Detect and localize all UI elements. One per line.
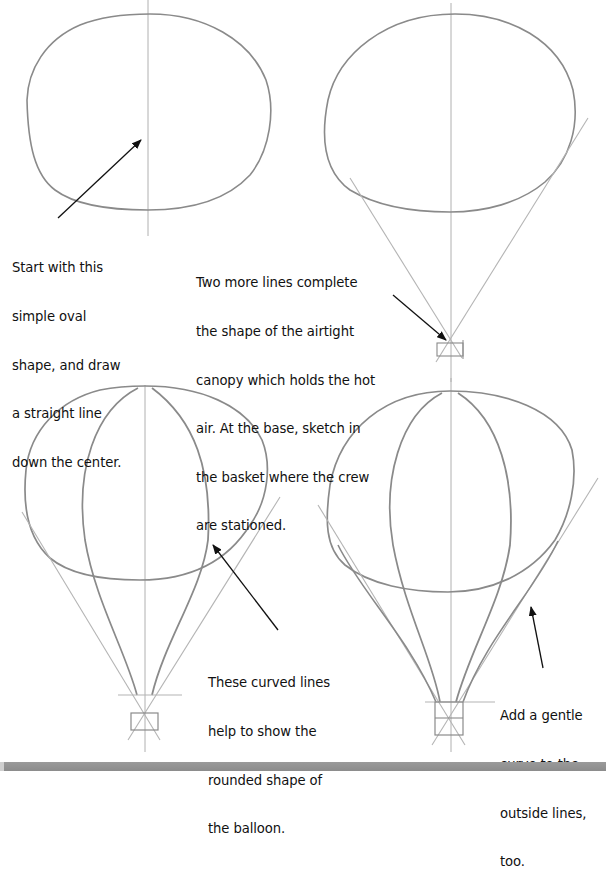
step-2-caption: Two more lines complete the shape of the… <box>196 243 375 567</box>
footer-bar <box>0 762 606 771</box>
gore-curve-right <box>456 393 511 702</box>
oval-shape <box>324 14 575 212</box>
gore-curve-left <box>390 393 442 702</box>
footer-bar-edge <box>0 762 4 771</box>
canopy-side-line-left <box>22 512 160 740</box>
step-4-caption: Add a gentle curve to the outside lines,… <box>500 676 586 870</box>
arrow-icon <box>393 295 446 340</box>
oval-shape <box>27 14 271 210</box>
arrow-icon <box>531 607 543 668</box>
step-1-caption: Start with this simple oval shape, and d… <box>12 228 121 503</box>
canopy-side-line-right <box>436 118 588 362</box>
outside-curve-left <box>338 545 436 702</box>
step-1-drawing <box>27 0 271 236</box>
step-3-caption: These curved lines help to show the roun… <box>208 643 330 870</box>
